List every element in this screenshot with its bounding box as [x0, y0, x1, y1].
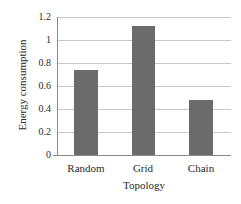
bar-chart: Energy consumption 1.2 1 0.8 0.6 0.4 0.2…	[0, 0, 241, 204]
y-tick-label: 0.2	[27, 127, 51, 137]
x-axis	[53, 155, 231, 156]
y-axis	[57, 17, 58, 156]
y-tick-label: 0.8	[27, 58, 51, 68]
x-axis-label: Topology	[104, 179, 184, 191]
bar-chain	[189, 100, 213, 155]
y-tick-label: 0	[27, 150, 51, 160]
x-tick-label-grid: Grid	[118, 162, 168, 174]
x-tick-label-chain: Chain	[176, 162, 226, 174]
y-tick-label: 1	[27, 35, 51, 45]
x-tick-label-random: Random	[61, 162, 111, 174]
gridline-1.2	[57, 17, 231, 18]
y-tick-label: 0.6	[27, 81, 51, 91]
y-tick-label: 1.2	[27, 12, 51, 22]
bar-grid	[132, 26, 155, 155]
bar-random	[74, 70, 98, 155]
y-tick-label: 0.4	[27, 104, 51, 114]
